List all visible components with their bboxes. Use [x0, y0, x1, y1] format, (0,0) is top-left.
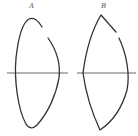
panel-b-label: B [100, 2, 106, 10]
panel-b: B [77, 2, 136, 130]
panel-a: A [7, 2, 68, 128]
panel-a-label: A [28, 2, 34, 10]
diagram: A B [0, 0, 138, 136]
panel-b-curve-main [83, 15, 128, 130]
